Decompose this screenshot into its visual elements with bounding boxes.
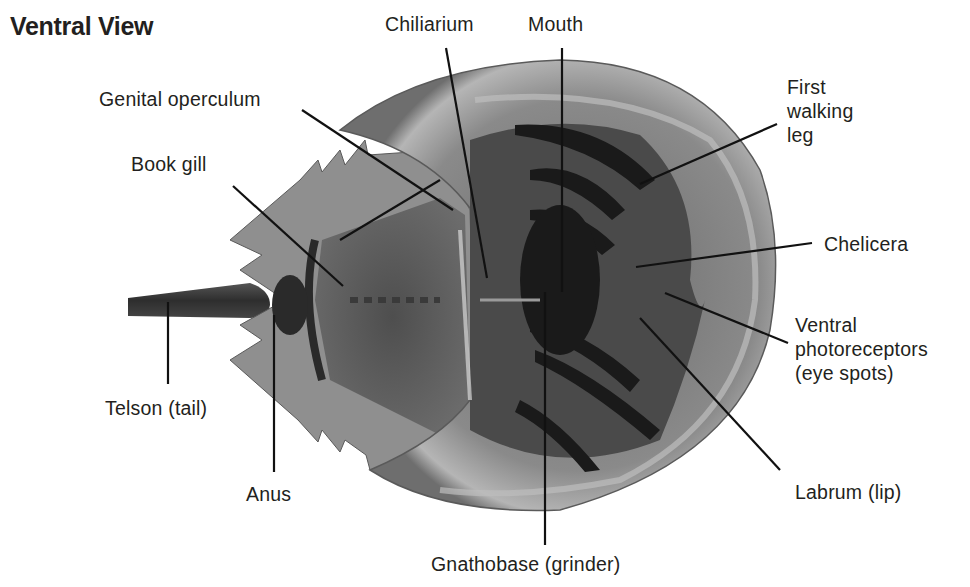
label-ventral-photoreceptors: Ventral photoreceptors (eye spots) [795, 313, 928, 385]
label-anus: Anus [246, 482, 291, 506]
label-chelicera: Chelicera [824, 232, 908, 256]
label-first-walking-leg-line1: First [787, 75, 853, 99]
label-first-walking-leg-line3: leg [787, 123, 853, 147]
label-ventral-photoreceptors-line1: Ventral [795, 313, 928, 337]
label-mouth: Mouth [528, 12, 583, 36]
diagram-title: Ventral View [10, 12, 153, 41]
label-chiliarium: Chiliarium [385, 12, 474, 36]
label-telson: Telson (tail) [105, 396, 207, 420]
label-ventral-photoreceptors-line2: photoreceptors [795, 337, 928, 361]
label-genital-operculum: Genital operculum [99, 87, 261, 111]
label-first-walking-leg-line2: walking [787, 99, 853, 123]
label-first-walking-leg: First walking leg [787, 75, 853, 147]
label-ventral-photoreceptors-line3: (eye spots) [795, 361, 928, 385]
label-gnathobase: Gnathobase (grinder) [431, 552, 620, 576]
label-labrum: Labrum (lip) [795, 480, 901, 504]
label-book-gill: Book gill [131, 152, 207, 176]
telson-shape [128, 283, 270, 318]
